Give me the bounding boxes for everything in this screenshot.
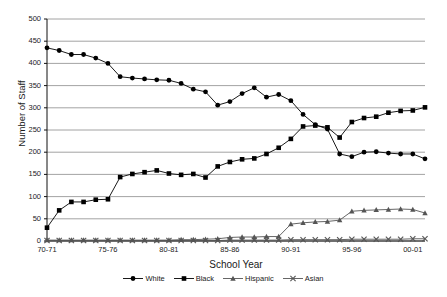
series-hispanic (44, 206, 427, 242)
square-marker (325, 125, 330, 130)
square-marker (337, 135, 342, 140)
circle-marker (130, 76, 135, 81)
square-marker (181, 276, 186, 281)
square-marker (81, 200, 86, 205)
circle-marker (337, 152, 342, 157)
circle-marker (362, 150, 367, 155)
square-marker (313, 123, 318, 128)
circle-marker (191, 87, 196, 92)
circle-marker (252, 85, 257, 90)
circle-marker (93, 56, 98, 61)
circle-marker (398, 152, 403, 157)
legend-item-white[interactable]: White (123, 274, 164, 283)
square-marker (45, 225, 50, 230)
x-marker (283, 274, 303, 283)
square-marker (106, 197, 111, 202)
square-marker (142, 170, 147, 175)
legend-label: Black (196, 274, 214, 283)
square-marker (252, 156, 257, 161)
square-marker (240, 157, 245, 162)
square-marker (386, 110, 391, 115)
square-marker (215, 164, 220, 169)
legend-label: Hispanic (245, 274, 274, 283)
circle-marker (179, 81, 184, 86)
legend-label: White (145, 274, 164, 283)
circle-marker (154, 77, 159, 82)
circle-marker (118, 74, 123, 79)
x-axis-title: School Year (47, 259, 425, 270)
square-marker (191, 172, 196, 177)
square-marker (179, 173, 184, 178)
square-marker (398, 109, 403, 114)
circle-marker (167, 78, 172, 83)
square-marker (301, 124, 306, 129)
legend-item-asian[interactable]: Asian (283, 274, 324, 283)
circle-marker (123, 274, 143, 283)
circle-marker (215, 103, 220, 108)
legend-label: Asian (305, 274, 324, 283)
circle-marker (203, 89, 208, 94)
square-marker (350, 120, 355, 125)
square-marker (130, 172, 135, 177)
square-marker (289, 137, 294, 142)
legend-item-hispanic[interactable]: Hispanic (223, 274, 274, 283)
circle-marker (288, 98, 293, 103)
square-marker (374, 114, 379, 119)
square-marker (167, 171, 172, 176)
series-line (47, 209, 425, 240)
square-marker (411, 108, 416, 113)
circle-marker (69, 52, 74, 57)
square-marker (423, 105, 428, 110)
circle-marker (264, 95, 269, 100)
series-black (45, 105, 428, 230)
circle-marker (45, 45, 50, 50)
chart-legend: WhiteBlackHispanicAsian (0, 274, 447, 283)
series-line (47, 48, 425, 159)
square-marker (228, 160, 233, 165)
square-marker (203, 175, 208, 180)
square-marker (174, 274, 194, 283)
square-marker (57, 208, 62, 213)
square-marker (69, 200, 74, 205)
circle-marker (301, 112, 306, 117)
chart-container: Number of Staff 050100150200250300350400… (0, 0, 447, 297)
circle-marker (142, 77, 147, 82)
circle-marker (386, 151, 391, 156)
circle-marker (240, 91, 245, 96)
circle-marker (228, 99, 233, 104)
triangle-marker (223, 274, 243, 283)
series-line (47, 107, 425, 227)
circle-marker (57, 48, 62, 53)
circle-marker (81, 52, 86, 57)
square-marker (264, 152, 269, 157)
square-marker (154, 168, 159, 173)
circle-marker (423, 156, 428, 161)
square-marker (276, 145, 281, 150)
square-marker (118, 175, 123, 180)
circle-marker (374, 149, 379, 154)
circle-marker (131, 276, 136, 281)
circle-marker (276, 92, 281, 97)
plot-area (0, 0, 447, 297)
square-marker (362, 116, 367, 121)
legend-item-black[interactable]: Black (174, 274, 214, 283)
square-marker (93, 197, 98, 202)
triangle-marker (337, 217, 342, 222)
series-white (45, 45, 428, 161)
circle-marker (106, 61, 111, 66)
circle-marker (410, 152, 415, 157)
circle-marker (349, 154, 354, 159)
